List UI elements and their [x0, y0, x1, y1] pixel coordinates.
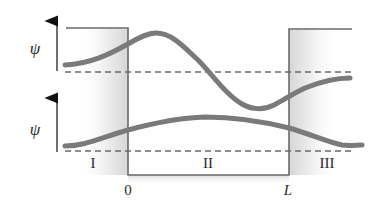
upper-psi-label: ψ: [30, 40, 41, 57]
lower-psi-label: ψ: [30, 121, 41, 138]
left-barrier-shade: [78, 29, 128, 175]
region-II-label: II: [203, 156, 213, 171]
region-III-label: III: [320, 156, 335, 171]
region-I-label: I: [91, 156, 96, 171]
well-bottom-shade: [128, 175, 289, 185]
right-barrier-shade: [289, 30, 339, 175]
wavefunction-diagram: [0, 0, 379, 209]
position-zero-label: 0: [124, 183, 132, 198]
position-L-label: L: [284, 183, 292, 198]
